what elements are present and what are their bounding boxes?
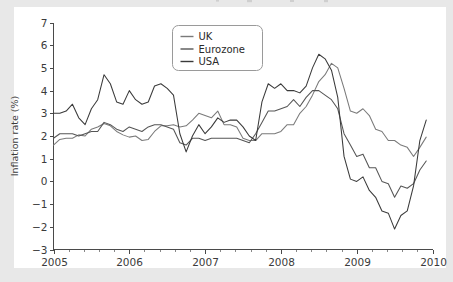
- cropped-title-artifact: [216, 0, 328, 2]
- series-lines: [54, 54, 427, 229]
- y-axis-tick-labels: 76543210−1−2−3: [32, 17, 48, 256]
- y-tick-label: 0: [41, 175, 48, 187]
- figure-root: 76543210−1−2−3 200520062007200820092010 …: [0, 0, 453, 282]
- legend-label-uk[interactable]: UK: [199, 31, 213, 42]
- x-tick-label: 2007: [192, 256, 219, 268]
- x-tick-label: 2006: [116, 256, 143, 268]
- series-line-usa: [54, 54, 427, 229]
- legend-label-eurozone[interactable]: Eurozone: [199, 44, 246, 55]
- y-axis-ticks: [50, 24, 54, 251]
- inflation-line-chart: 76543210−1−2−3 200520062007200820092010 …: [0, 0, 453, 282]
- y-tick-label: 6: [41, 39, 48, 51]
- y-tick-label: 7: [41, 17, 48, 29]
- legend-label-usa[interactable]: USA: [199, 56, 220, 67]
- y-axis-title-text: Inflation rate (%): [9, 96, 20, 177]
- y-tick-label: −1: [32, 198, 47, 210]
- x-tick-label: 2005: [41, 256, 68, 268]
- y-tick-label: 5: [41, 62, 48, 74]
- y-tick-label: 2: [41, 130, 48, 142]
- x-axis-tick-labels: 200520062007200820092010: [41, 256, 447, 268]
- y-tick-label: −3: [32, 244, 47, 256]
- y-tick-label: 4: [41, 85, 48, 97]
- y-tick-label: 1: [41, 153, 48, 165]
- y-tick-label: 3: [41, 107, 48, 119]
- x-tick-label: 2010: [420, 256, 447, 268]
- chart-legend[interactable]: UKEurozoneUSA: [173, 26, 263, 71]
- x-tick-label: 2008: [268, 256, 295, 268]
- series-line-eurozone: [54, 91, 427, 198]
- y-axis-title: Inflation rate (%): [9, 96, 20, 177]
- series-line-uk: [54, 63, 427, 156]
- x-axis-ticks: [55, 250, 434, 254]
- x-tick-label: 2009: [344, 256, 371, 268]
- y-tick-label: −2: [32, 221, 47, 233]
